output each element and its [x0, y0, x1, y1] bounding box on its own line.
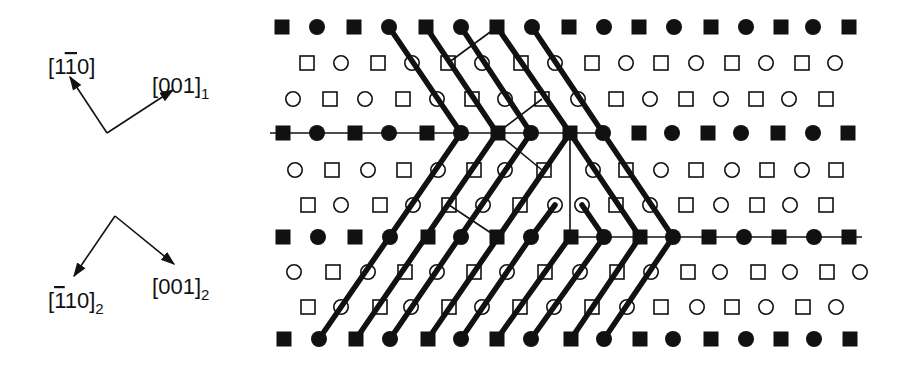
open-square-atom-icon	[819, 92, 833, 106]
open-circle-atom-icon	[759, 300, 773, 314]
filled-square-atom-icon	[275, 20, 290, 35]
filled-square-atom-icon	[843, 332, 858, 347]
atomic-chain-lines	[319, 27, 673, 339]
filled-circle-atom-icon	[381, 19, 397, 35]
open-square-atom-icon	[819, 198, 833, 212]
filled-circle-atom-icon	[596, 229, 612, 245]
open-circle-atom-icon	[795, 163, 809, 177]
atomic-chain	[604, 237, 673, 339]
open-circle-atom-icon	[334, 198, 348, 212]
open-circle-atom-icon	[358, 92, 372, 106]
axis-arrow-icon	[115, 216, 174, 264]
filled-square-atom-icon	[348, 126, 363, 141]
open-square-atom-icon	[829, 163, 843, 177]
filled-circle-atom-icon	[733, 125, 749, 141]
open-square-atom-icon	[654, 56, 668, 70]
open-square-atom-icon	[326, 265, 340, 279]
open-circle-atom-icon	[690, 300, 704, 314]
open-square-atom-icon	[301, 198, 315, 212]
filled-circle-atom-icon	[523, 125, 539, 141]
axis-label: [001]2	[152, 274, 209, 303]
filled-circle-atom-icon	[664, 125, 680, 141]
filled-circle-atom-icon	[805, 125, 821, 141]
open-square-atom-icon	[397, 163, 411, 177]
filled-circle-atom-icon	[382, 331, 398, 347]
lattice-atoms	[275, 19, 868, 347]
filled-circle-atom-icon	[309, 19, 325, 35]
filled-square-atom-icon	[491, 126, 506, 141]
open-square-atom-icon	[679, 198, 693, 212]
filled-square-atom-icon	[771, 126, 786, 141]
filled-circle-atom-icon	[666, 19, 682, 35]
open-circle-atom-icon	[334, 56, 348, 70]
grain2-axes: [110]2[001]2	[48, 216, 209, 317]
open-circle-atom-icon	[853, 265, 867, 279]
atomic-chain	[389, 27, 461, 133]
atomic-chain	[426, 27, 497, 133]
filled-circle-atom-icon	[806, 331, 822, 347]
open-square-atom-icon	[796, 300, 810, 314]
open-square-atom-icon	[689, 163, 703, 177]
open-circle-atom-icon	[714, 92, 728, 106]
open-square-atom-icon	[396, 92, 410, 106]
filled-circle-atom-icon	[453, 331, 469, 347]
filled-square-atom-icon	[564, 332, 579, 347]
open-square-atom-icon	[725, 300, 739, 314]
filled-circle-atom-icon	[453, 125, 469, 141]
filled-circle-atom-icon	[665, 229, 681, 245]
open-square-atom-icon	[585, 56, 599, 70]
filled-circle-atom-icon	[738, 19, 754, 35]
open-circle-atom-icon	[643, 92, 657, 106]
open-square-atom-icon	[300, 56, 314, 70]
filled-circle-atom-icon	[665, 331, 681, 347]
filled-circle-atom-icon	[805, 19, 821, 35]
open-circle-atom-icon	[288, 163, 302, 177]
filled-square-atom-icon	[702, 230, 717, 245]
crystal-axes: [110][001]1[110]2[001]2	[48, 54, 209, 317]
grain1-axes: [110][001]1	[48, 54, 209, 133]
filled-square-atom-icon	[842, 20, 857, 35]
filled-circle-atom-icon	[453, 229, 469, 245]
open-square-atom-icon	[681, 265, 695, 279]
axis-label: [110]2	[48, 288, 104, 317]
open-circle-atom-icon	[287, 265, 301, 279]
atomic-chain	[461, 27, 531, 133]
atomic-chain	[497, 237, 570, 339]
filled-square-atom-icon	[348, 230, 363, 245]
open-circle-atom-icon	[759, 56, 773, 70]
axis-label: [001]1	[152, 73, 209, 102]
filled-square-atom-icon	[774, 20, 789, 35]
open-circle-atom-icon	[714, 198, 728, 212]
filled-square-atom-icon	[490, 230, 505, 245]
open-circle-atom-icon	[654, 163, 668, 177]
atomic-chain	[531, 237, 604, 339]
filled-square-atom-icon	[562, 20, 577, 35]
filled-circle-atom-icon	[523, 229, 539, 245]
atomic-chain	[571, 237, 640, 339]
open-square-atom-icon	[760, 163, 774, 177]
open-square-atom-icon	[750, 198, 764, 212]
filled-square-atom-icon	[563, 126, 578, 141]
open-square-atom-icon	[371, 56, 385, 70]
filled-square-atom-icon	[347, 20, 362, 35]
open-square-atom-icon	[325, 163, 339, 177]
filled-square-atom-icon	[419, 20, 434, 35]
filled-circle-atom-icon	[595, 125, 611, 141]
filled-square-atom-icon	[772, 230, 787, 245]
filled-circle-atom-icon	[596, 19, 612, 35]
filled-square-atom-icon	[633, 230, 648, 245]
open-square-atom-icon	[749, 92, 763, 106]
filled-circle-atom-icon	[524, 19, 540, 35]
filled-square-atom-icon	[841, 126, 856, 141]
open-square-atom-icon	[654, 300, 668, 314]
filled-square-atom-icon	[490, 20, 505, 35]
filled-square-atom-icon	[633, 332, 648, 347]
filled-square-atom-icon	[276, 230, 291, 245]
axis-label: [110]	[48, 54, 95, 79]
open-square-atom-icon	[679, 92, 693, 106]
axis-arrow-icon	[70, 77, 107, 133]
filled-circle-atom-icon	[310, 229, 326, 245]
open-circle-atom-icon	[783, 198, 797, 212]
open-circle-atom-icon	[689, 56, 703, 70]
open-square-atom-icon	[301, 300, 315, 314]
